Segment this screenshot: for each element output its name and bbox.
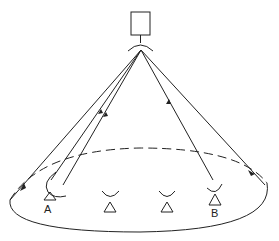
station-b-label: B xyxy=(211,207,218,219)
station-2-dish-icon xyxy=(102,191,119,197)
station-b-dish-icon xyxy=(207,184,222,192)
beam-to-a-2 xyxy=(63,50,141,185)
cone-edge-right xyxy=(141,50,265,185)
station-b-mount xyxy=(209,194,221,205)
station-3-dish-icon xyxy=(159,191,175,197)
beam-to-b xyxy=(141,50,213,180)
satellite-body xyxy=(131,12,150,35)
satellite-diagram: A B xyxy=(0,0,279,241)
station-3-mount xyxy=(161,202,173,212)
station-a-label: A xyxy=(44,203,52,215)
station-2-mount xyxy=(104,202,116,212)
beam-to-a-1 xyxy=(51,50,141,180)
